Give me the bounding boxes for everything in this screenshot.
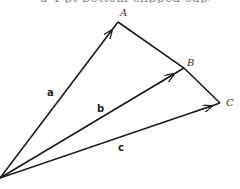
vector-diagram: A B C a b c	[0, 0, 240, 189]
vector-c-arrowhead-icon	[194, 106, 212, 112]
point-label-b: B	[186, 57, 194, 68]
path-a-b-c	[118, 22, 220, 103]
point-label-a: A	[119, 7, 127, 18]
vector-b-arrowhead-icon	[158, 74, 174, 84]
vector-label-b: b	[97, 103, 104, 114]
vector-label-c: c	[118, 142, 124, 153]
vector-label-a: a	[47, 87, 54, 98]
vector-c-line	[0, 103, 220, 178]
point-label-c: C	[226, 97, 234, 108]
vector-b-line	[0, 68, 184, 178]
vector-a-arrowhead-icon	[100, 30, 112, 46]
